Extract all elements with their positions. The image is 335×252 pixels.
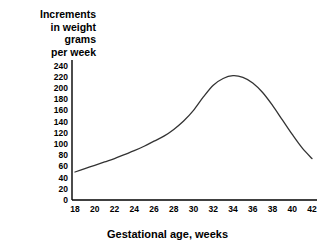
x-tick-label: 38 — [268, 204, 278, 214]
y-tick-label: 20 — [59, 184, 69, 194]
y-tick-label: 120 — [54, 128, 68, 138]
y-tick-label: 220 — [54, 72, 68, 82]
y-tick-label: 240 — [54, 61, 68, 71]
x-tick-label: 24 — [130, 204, 140, 214]
x-axis-title: Gestational age, weeks — [0, 228, 335, 240]
x-tick-label: 32 — [209, 204, 219, 214]
weight-increment-curve — [75, 76, 312, 172]
chart-plot-area: 020406080100120140160180200220240 182022… — [0, 0, 335, 252]
x-tick-label: 28 — [169, 204, 179, 214]
y-tick-label: 80 — [59, 150, 69, 160]
x-tick-label: 34 — [228, 204, 238, 214]
y-axis-tick-labels: 020406080100120140160180200220240 — [54, 61, 68, 205]
y-tick-label: 100 — [54, 139, 68, 149]
y-tick-label: 180 — [54, 94, 68, 104]
x-tick-label: 42 — [307, 204, 317, 214]
x-tick-label: 26 — [149, 204, 159, 214]
x-axis-tick-labels: 18202224262830323436384042 — [70, 204, 317, 214]
x-tick-label: 22 — [110, 204, 120, 214]
chart-page: Increments in weight grams per week 0204… — [0, 0, 335, 252]
y-tick-label: 60 — [59, 161, 69, 171]
x-tick-label: 18 — [70, 204, 80, 214]
x-tick-label: 40 — [288, 204, 298, 214]
y-tick-label: 140 — [54, 117, 68, 127]
x-tick-label: 36 — [248, 204, 258, 214]
y-tick-label: 0 — [63, 195, 68, 205]
y-tick-label: 40 — [59, 173, 69, 183]
x-tick-label: 20 — [90, 204, 100, 214]
y-tick-label: 200 — [54, 83, 68, 93]
y-tick-label: 160 — [54, 105, 68, 115]
x-tick-label: 30 — [189, 204, 199, 214]
